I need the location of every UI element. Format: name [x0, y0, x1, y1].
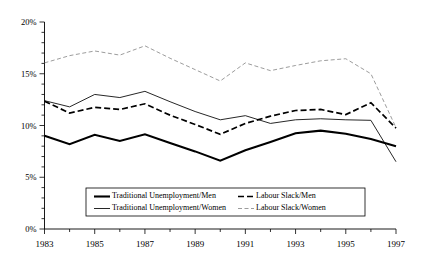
x-tick-label: 1997 [387, 239, 406, 249]
series-line-labour-slack-men [45, 101, 397, 134]
series-line-traditional-unemployment-women [45, 91, 397, 161]
y-tick-label: 20% [21, 17, 37, 27]
x-tick-label: 1985 [86, 239, 105, 249]
chart-series-lines [45, 46, 397, 162]
chart-legend: Traditional Unemployment/MenLabour Slack… [86, 188, 365, 216]
x-tick-label: 1995 [337, 239, 356, 249]
legend-label: Labour Slack/Men [256, 191, 316, 200]
y-tick-label: 15% [21, 69, 37, 79]
unemployment-labour-slack-line-chart: 0%5%10%15%20% 19831985198719891991199319… [0, 0, 422, 263]
x-axis-tick-labels: 19831985198719891991199319951997 [36, 239, 406, 249]
x-tick-label: 1987 [136, 239, 155, 249]
y-axis-tick-labels: 0%5%10%15%20% [21, 17, 37, 234]
x-tick-label: 1983 [36, 239, 55, 249]
y-tick-label: 5% [25, 172, 36, 182]
x-axis-ticks [45, 229, 397, 234]
x-tick-label: 1991 [236, 239, 254, 249]
x-tick-label: 1993 [287, 239, 306, 249]
legend-label: Traditional Unemployment/Men [112, 191, 216, 200]
legend-label: Labour Slack/Women [256, 203, 326, 212]
y-tick-label: 0% [25, 224, 36, 234]
y-axis-ticks [40, 22, 45, 229]
x-tick-label: 1989 [186, 239, 205, 249]
chart-canvas: 0%5%10%15%20% 19831985198719891991199319… [0, 0, 422, 263]
y-tick-label: 10% [21, 121, 37, 131]
series-line-labour-slack-women [45, 46, 397, 128]
legend-label: Traditional Unemployment/Women [112, 203, 226, 212]
